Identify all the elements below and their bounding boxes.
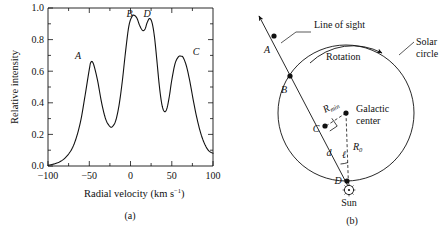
x-tick-label: 50 — [167, 170, 177, 181]
point-c-dot — [322, 123, 327, 128]
y-tick-label: 0.4 — [32, 97, 45, 108]
x-tick-label: 0 — [128, 170, 133, 181]
peak-label-D: D — [142, 8, 151, 19]
x-axis-title: Radial velocity (km s−1) — [84, 187, 185, 200]
rotation-label: Rotation — [326, 51, 360, 62]
point-a-label: A — [263, 44, 271, 55]
sun-symbol — [343, 184, 356, 197]
line-of-sight-leader — [281, 32, 311, 43]
panel-b-diagram: Line of sight Rotation Solar circle Gala… — [221, 0, 442, 229]
solar-circle-label-line1: Solar — [416, 36, 438, 47]
x-axis-title-exponent: −1 — [174, 187, 181, 194]
y-axis-ticks — [48, 8, 53, 166]
galactic-center-label-line2: center — [356, 115, 381, 126]
y-tick-label: 0.6 — [32, 66, 45, 77]
y-axis-ticks-right — [208, 24, 213, 150]
sun-label: Sun — [341, 197, 357, 208]
peak-label-C: C — [193, 46, 200, 57]
point-b-label: B — [281, 84, 287, 95]
panel-a-caption: (a) — [124, 210, 135, 222]
peak-label-A: A — [74, 50, 82, 61]
panel-a-spectrum: 0.0 0.2 0.4 0.6 0.8 1.0 −100 −50 0 50 10… — [0, 0, 221, 229]
x-axis-ticks — [48, 161, 213, 166]
geometry-svg: Line of sight Rotation Solar circle Gala… — [221, 0, 442, 229]
spectrum-svg: 0.0 0.2 0.4 0.6 0.8 1.0 −100 −50 0 50 10… — [0, 0, 221, 229]
r-zero-segment — [346, 113, 349, 186]
point-b-dot — [287, 73, 292, 78]
galactic-center-dot — [343, 110, 348, 115]
point-d-label: D — [333, 175, 342, 186]
x-tick-label: 100 — [206, 170, 221, 181]
peak-label-B: B — [126, 8, 132, 19]
x-axis-title-main: Radial velocity (km s — [84, 188, 174, 200]
right-angle-marker — [330, 118, 337, 131]
point-d-dot — [344, 178, 349, 183]
spectrum-curve — [48, 15, 213, 165]
svg-text:Rmin: Rmin — [320, 98, 341, 117]
x-axis-title-tail: ) — [181, 188, 185, 200]
panel-b-caption: (b) — [346, 215, 358, 227]
y-tick-label: 1.0 — [32, 2, 45, 13]
r-min-label: Rmin — [320, 98, 341, 117]
galactic-longitude-label: ℓ — [342, 149, 346, 160]
point-c-label: C — [313, 123, 320, 134]
y-axis-title: Relative intensity — [9, 49, 20, 124]
plot-frame — [48, 8, 213, 166]
longitude-angle-arc — [341, 163, 349, 165]
line-of-sight-label: Line of sight — [314, 19, 365, 30]
y-tick-label: 0.8 — [32, 34, 45, 45]
peak-annotations: A B D C — [74, 8, 200, 61]
distance-d-label: d — [327, 147, 333, 158]
r-zero-subscript: 0 — [359, 146, 363, 153]
galactic-center-label-line1: Galactic — [356, 103, 390, 114]
point-a-dot — [271, 33, 276, 38]
x-tick-labels: −100 −50 0 50 100 — [38, 170, 221, 181]
solar-circle-leader — [399, 42, 414, 55]
svg-text:Radial velocity (km s−1): Radial velocity (km s−1) — [84, 187, 185, 200]
r-zero-label: R0 — [352, 141, 363, 153]
r-min-subscript: min — [329, 102, 341, 113]
figure-root: 0.0 0.2 0.4 0.6 0.8 1.0 −100 −50 0 50 10… — [0, 0, 442, 229]
y-tick-label: 0.2 — [32, 129, 45, 140]
x-tick-label: −50 — [81, 170, 97, 181]
y-tick-labels: 0.0 0.2 0.4 0.6 0.8 1.0 — [32, 2, 45, 171]
solar-circle-label-line2: circle — [416, 48, 439, 59]
x-tick-label: −100 — [38, 170, 59, 181]
r-zero-base: R — [352, 141, 359, 152]
